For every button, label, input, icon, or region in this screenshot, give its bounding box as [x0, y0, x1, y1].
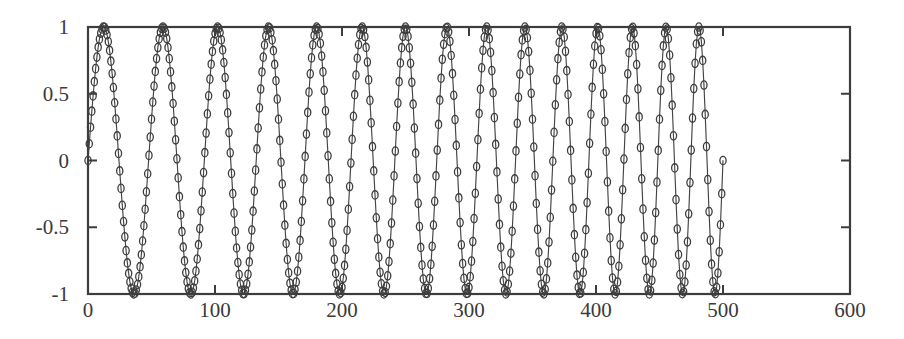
y-axis-tick-label: 0.5 [0, 83, 78, 104]
x-axis-tick-label: 600 [834, 300, 866, 321]
x-axis-tick-label: 400 [580, 300, 612, 321]
x-axis-tick-label: 300 [453, 300, 485, 321]
y-axis-tick-label: -0.5 [0, 217, 78, 238]
x-axis-tick-label: 100 [199, 300, 231, 321]
chirp-line-chart [0, 0, 904, 339]
series-layer [88, 27, 723, 294]
y-axis-tick-label: 1 [0, 17, 78, 38]
y-axis-tick-label: 0 [0, 150, 78, 171]
chirp-series-line [88, 27, 723, 294]
axis-ticks [88, 27, 850, 294]
marker-layer [85, 23, 726, 298]
chart-figure: 0100200300400500600-1-0.500.51 [0, 0, 904, 339]
plot-frame [88, 27, 850, 294]
x-axis-tick-label: 0 [83, 300, 94, 321]
y-axis-tick-label: -1 [0, 284, 78, 305]
x-axis-tick-label: 500 [707, 300, 739, 321]
x-axis-tick-label: 200 [326, 300, 358, 321]
